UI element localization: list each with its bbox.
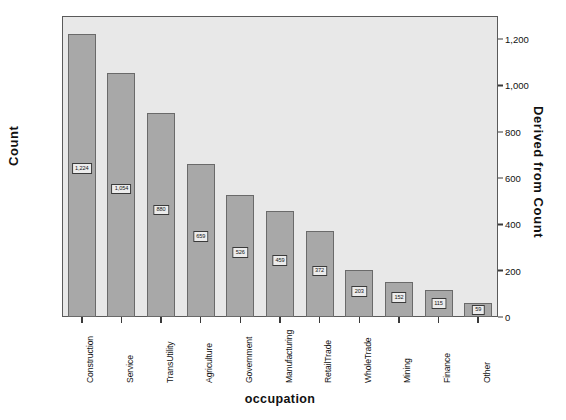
bar-rect — [147, 113, 175, 317]
x-tick — [359, 317, 361, 323]
bars-layer: 1,2241,05488065952645937220315211559 — [62, 16, 498, 317]
x-tick — [160, 317, 162, 323]
bar-value-label: 152 — [391, 292, 406, 302]
bar-service[interactable]: 1,054 — [107, 16, 135, 317]
x-tick — [121, 317, 123, 323]
bar-value-label: 1,054 — [112, 184, 132, 194]
x-category-label-wholetrade: WholeTrade — [363, 338, 373, 384]
bar-transutility[interactable]: 880 — [147, 16, 175, 317]
x-tick — [240, 317, 242, 323]
x-category-label-finance: Finance — [442, 353, 452, 383]
y-axis-left: 02004006008001,0001,200 — [0, 0, 62, 420]
y-tick-right-label: 1,000 — [503, 80, 529, 91]
bar-value-label: 115 — [431, 298, 446, 308]
bar-rect — [107, 73, 135, 317]
x-tick — [398, 317, 400, 323]
x-category-label-manufacturing: Manufacturing — [284, 330, 294, 383]
x-category-label-retailtrade: RetailTrade — [323, 340, 333, 383]
x-tick — [319, 317, 321, 323]
y-axis-left-title: Count — [6, 125, 21, 166]
bar-rect — [68, 34, 96, 317]
y-tick-right-label: 400 — [503, 219, 521, 230]
bar-chart: 1,2241,05488065952645937220315211559 020… — [0, 0, 566, 420]
bar-value-label: 1,224 — [72, 163, 92, 173]
y-tick-right-label: 200 — [503, 265, 521, 276]
bar-value-label: 526 — [233, 247, 248, 257]
bar-value-label: 659 — [193, 231, 208, 241]
bar-retailtrade[interactable]: 372 — [306, 16, 334, 317]
bar-government[interactable]: 526 — [226, 16, 254, 317]
y-tick-right-label: 800 — [503, 126, 521, 137]
y-tick-right: 0 — [498, 312, 510, 323]
y-tick-right-label: 600 — [503, 173, 521, 184]
y-tick-right: 400 — [498, 219, 521, 230]
x-category-label-government: Government — [244, 337, 254, 383]
y-tick-right: 600 — [498, 173, 521, 184]
y-tick-right: 800 — [498, 126, 521, 137]
bar-mining[interactable]: 152 — [385, 16, 413, 317]
x-category-label-construction: Construction — [85, 336, 95, 383]
y-tick-right: 1,000 — [498, 80, 529, 91]
x-tick — [477, 317, 479, 323]
y-tick-right: 1,200 — [498, 34, 529, 45]
bar-other[interactable]: 59 — [464, 16, 492, 317]
bar-value-label: 59 — [472, 305, 484, 315]
bar-finance[interactable]: 115 — [425, 16, 453, 317]
x-tick — [438, 317, 440, 323]
bar-value-label: 880 — [153, 205, 168, 215]
x-tick — [81, 317, 83, 323]
x-category-label-mining: Mining — [402, 358, 412, 383]
x-axis-title: occupation — [62, 392, 498, 406]
x-category-label-service: Service — [125, 355, 135, 383]
bar-value-label: 459 — [272, 255, 287, 265]
x-category-label-transutility: TransUtility — [165, 342, 175, 383]
x-category-label-agriculture: Agriculture — [204, 343, 214, 383]
bar-manufacturing[interactable]: 459 — [266, 16, 294, 317]
x-category-label-other: Other — [482, 362, 492, 383]
x-tick — [200, 317, 202, 323]
bar-construction[interactable]: 1,224 — [68, 16, 96, 317]
y-tick-right-label: 1,200 — [503, 34, 529, 45]
x-tick — [279, 317, 281, 323]
x-axis: ConstructionServiceTransUtilityAgricultu… — [62, 317, 498, 392]
bar-value-label: 203 — [352, 286, 367, 296]
y-tick-right-label: 0 — [503, 312, 510, 323]
y-axis-right-title: Derived from Count — [531, 106, 546, 238]
bar-value-label: 372 — [312, 266, 327, 276]
bar-agriculture[interactable]: 659 — [187, 16, 215, 317]
y-tick-right: 200 — [498, 265, 521, 276]
bar-wholetrade[interactable]: 203 — [345, 16, 373, 317]
